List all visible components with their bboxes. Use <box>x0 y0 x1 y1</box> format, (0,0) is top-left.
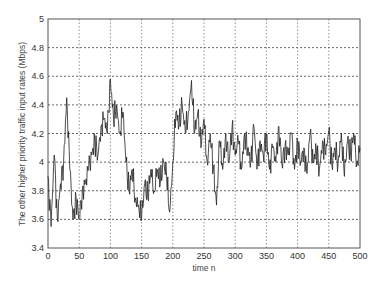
x-tick-label: 0 <box>45 251 50 261</box>
x-tick-label: 450 <box>321 251 336 261</box>
y-tick-label: 4 <box>39 157 44 167</box>
x-tick-label: 400 <box>290 251 305 261</box>
y-tick-label: 4.4 <box>31 100 44 110</box>
y-tick-label: 3.4 <box>31 243 44 253</box>
y-tick-label: 3.6 <box>31 214 44 224</box>
line-chart: 050100150200250300350400450500 3.43.63.8… <box>0 0 383 283</box>
y-axis-label: The other higher priority traffic input … <box>17 42 27 226</box>
x-axis-ticks: 050100150200250300350400450500 <box>45 251 367 261</box>
y-tick-label: 4.8 <box>31 43 44 53</box>
x-tick-label: 300 <box>228 251 243 261</box>
x-tick-label: 50 <box>74 251 84 261</box>
x-tick-label: 150 <box>134 251 149 261</box>
y-tick-label: 4.2 <box>31 129 44 139</box>
x-tick-label: 250 <box>196 251 211 261</box>
y-tick-label: 4.6 <box>31 71 44 81</box>
x-tick-label: 500 <box>352 251 367 261</box>
x-tick-label: 100 <box>103 251 118 261</box>
x-tick-label: 200 <box>165 251 180 261</box>
grid-lines <box>48 19 360 248</box>
y-tick-label: 3.8 <box>31 186 44 196</box>
y-tick-label: 5 <box>39 14 44 24</box>
x-tick-label: 350 <box>259 251 274 261</box>
y-axis-ticks: 3.43.63.844.24.44.64.85 <box>31 14 44 253</box>
x-axis-label: time n <box>192 263 215 273</box>
